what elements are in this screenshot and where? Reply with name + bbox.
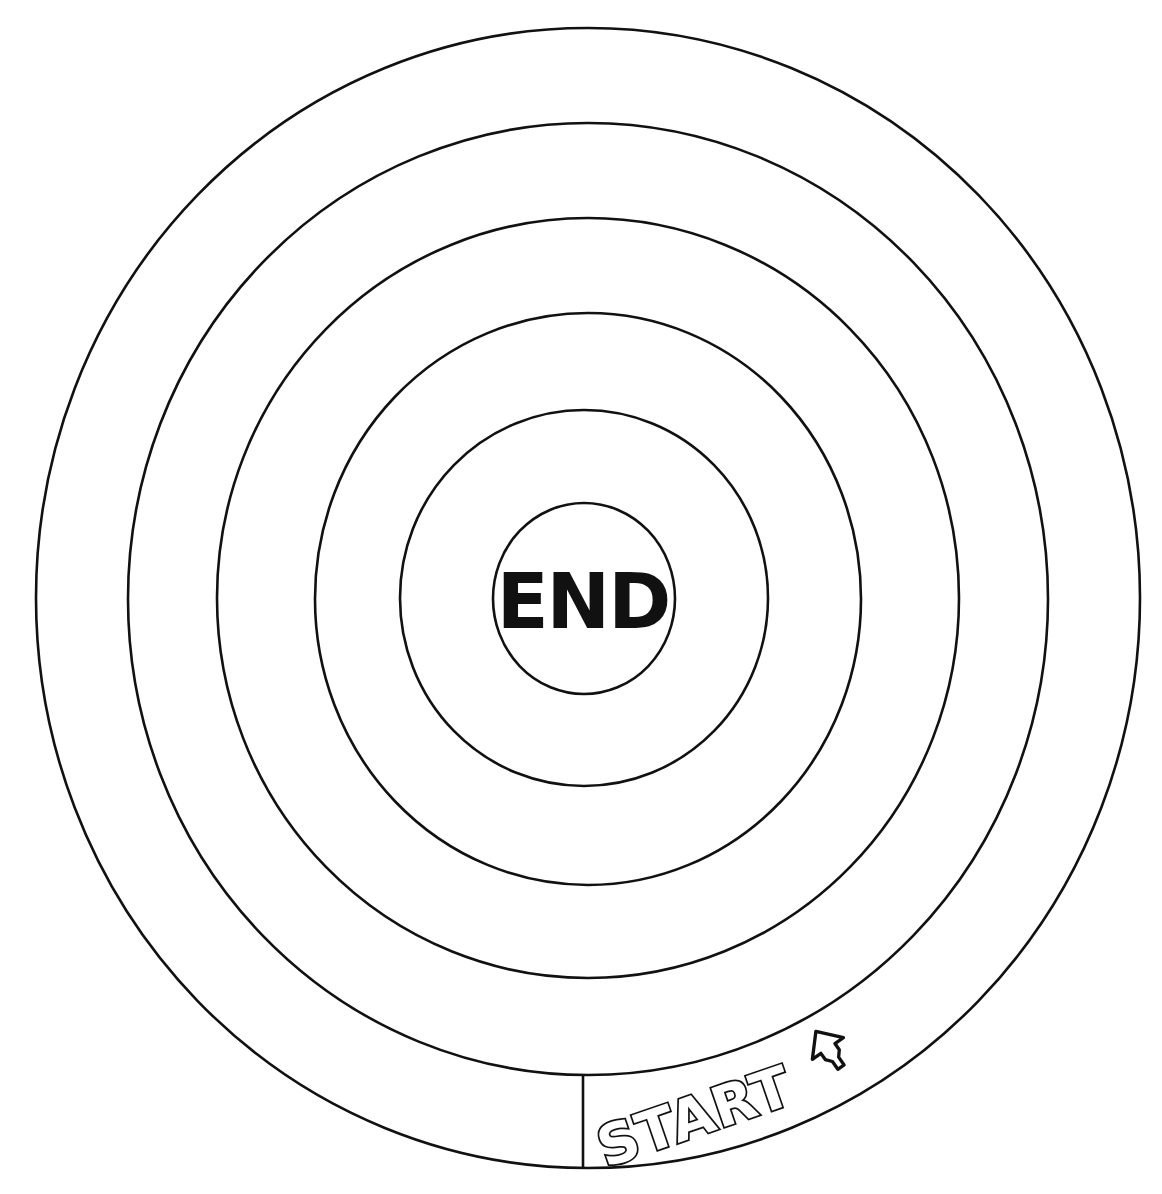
start-label: START <box>589 1053 801 1180</box>
arrow-up-right-icon <box>800 1020 856 1078</box>
game-board: END START <box>0 0 1162 1194</box>
start-zone: START <box>589 1053 801 1180</box>
end-label: END <box>497 557 670 646</box>
